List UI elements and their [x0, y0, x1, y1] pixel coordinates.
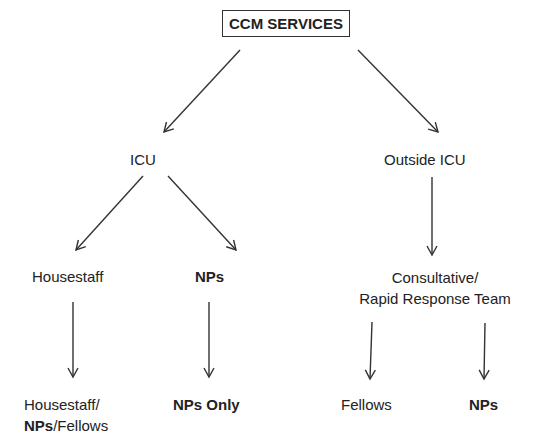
root-node: CCM SERVICES [222, 10, 350, 37]
consultative-line1: Consultative/ [340, 267, 530, 288]
housestaff-nps-fellows-node: Housestaff/ NPs/Fellows [24, 394, 108, 436]
outside-icu-node: Outside ICU [384, 149, 466, 170]
connector-arrows [0, 0, 543, 448]
fellows-node: Fellows [341, 394, 392, 415]
nps-node: NPs [195, 266, 224, 287]
icu-node: ICU [130, 149, 156, 170]
housestaff-node: Housestaff [32, 266, 103, 287]
nps-only-node: NPs Only [173, 394, 240, 415]
outside-nps-node: NPs [469, 394, 498, 415]
housestaff-combo-line1: Housestaff/ [24, 394, 108, 415]
consultative-line2: Rapid Response Team [340, 288, 530, 309]
consultative-node: Consultative/ Rapid Response Team [340, 267, 530, 309]
housestaff-combo-line2: NPs/Fellows [24, 415, 108, 436]
ccm-services-diagram: CCM SERVICES ICU Outside ICU Housestaff … [0, 0, 543, 448]
housestaff-combo-fellows: /Fellows [53, 417, 108, 434]
housestaff-combo-nps: NPs [24, 417, 53, 434]
